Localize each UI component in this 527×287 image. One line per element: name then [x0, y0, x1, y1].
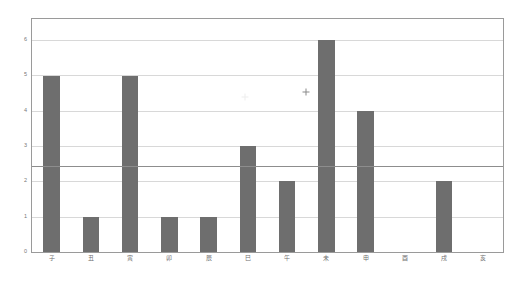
- x-tick-label: 未: [323, 255, 329, 261]
- x-tick-label: 戌: [441, 255, 447, 261]
- x-tick-label: 丑: [88, 255, 94, 261]
- faint-marker: [241, 94, 248, 101]
- y-tick-label: 0: [24, 249, 27, 255]
- x-tick-label: 巳: [245, 255, 251, 261]
- bar[interactable]: [43, 76, 59, 253]
- bar[interactable]: [279, 181, 295, 252]
- y-tick-label: 5: [24, 73, 27, 79]
- bar-chart: 0123456子丑寅卯辰巳午未申酉戌亥: [0, 0, 527, 287]
- bar[interactable]: [122, 76, 138, 253]
- y-tick-label: 2: [24, 179, 27, 185]
- x-tick-label: 亥: [480, 255, 486, 261]
- bar[interactable]: [240, 146, 256, 252]
- plot-area: 0123456子丑寅卯辰巳午未申酉戌亥: [32, 19, 503, 252]
- plus-marker: [302, 89, 309, 96]
- y-tick-label: 6: [24, 37, 27, 43]
- x-tick-label: 辰: [206, 255, 212, 261]
- reference-line: [32, 166, 503, 167]
- x-tick-label: 酉: [402, 255, 408, 261]
- gridline: [32, 40, 503, 41]
- x-axis-line: [32, 252, 503, 253]
- bar[interactable]: [161, 217, 177, 252]
- y-tick-label: 1: [24, 214, 27, 220]
- gridline: [32, 75, 503, 76]
- x-tick-label: 子: [49, 255, 55, 261]
- bar[interactable]: [318, 40, 334, 252]
- y-tick-label: 3: [24, 143, 27, 149]
- x-tick-label: 寅: [127, 255, 133, 261]
- x-tick-label: 申: [363, 255, 369, 261]
- y-tick-label: 4: [24, 108, 27, 114]
- bar[interactable]: [357, 111, 373, 252]
- x-tick-label: 卯: [166, 255, 172, 261]
- bar[interactable]: [200, 217, 216, 252]
- gridline: [32, 146, 503, 147]
- gridline: [32, 217, 503, 218]
- x-tick-label: 午: [284, 255, 290, 261]
- plot-frame: 0123456子丑寅卯辰巳午未申酉戌亥: [31, 18, 504, 253]
- bar[interactable]: [83, 217, 99, 252]
- gridline: [32, 181, 503, 182]
- gridline: [32, 111, 503, 112]
- bar[interactable]: [436, 181, 452, 252]
